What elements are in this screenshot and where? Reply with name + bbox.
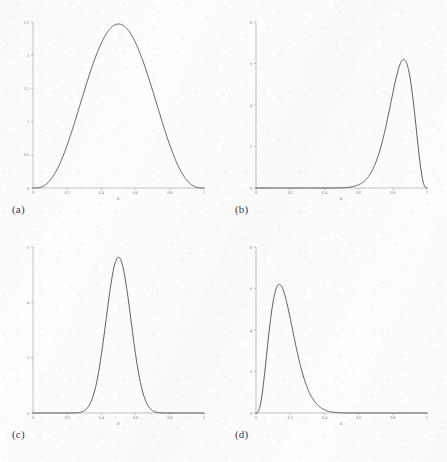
x-tick-label: 0 xyxy=(255,415,257,420)
y-tick-label: 6 xyxy=(250,286,252,291)
density-curve-a xyxy=(33,24,204,188)
y-tick-label: 2 xyxy=(27,355,29,360)
x-ticks-d: 00.20.40.60.81 xyxy=(255,413,428,420)
x-tick-label: 0.2 xyxy=(288,190,293,195)
y-tick-label: 0 xyxy=(27,186,29,191)
density-curve-c xyxy=(33,257,204,413)
y-tick-label: 0 xyxy=(250,411,252,416)
x-tick-label: 0.8 xyxy=(167,415,172,420)
y-tick-label: 0 xyxy=(27,411,29,416)
x-tick-label: 0.6 xyxy=(133,415,138,420)
panel-caption-b: (b) xyxy=(235,203,248,215)
x-tick-label: 0.8 xyxy=(167,190,172,195)
x-tick-label: 0.4 xyxy=(322,415,327,420)
y-ticks-c: 0246 xyxy=(27,245,33,416)
y-tick-label: 6 xyxy=(27,245,29,250)
chart-panel-a: 00.511.522.5 00.20.40.60.81 θ (a) xyxy=(0,0,223,231)
y-tick-label: 1 xyxy=(27,119,29,124)
chart-svg-a: 00.511.522.5 00.20.40.60.81 θ xyxy=(0,0,223,231)
y-tick-label: 1.5 xyxy=(24,86,29,91)
y-tick-label: 4 xyxy=(250,328,252,333)
x-ticks-a: 00.20.40.60.81 xyxy=(32,188,205,195)
y-tick-label: 0.5 xyxy=(24,152,29,157)
y-tick-label: 2 xyxy=(250,144,252,149)
x-tick-label: 0.2 xyxy=(65,415,70,420)
axes-b xyxy=(256,22,427,188)
panel-caption-d: (d) xyxy=(235,428,248,440)
y-tick-label: 4 xyxy=(27,300,29,305)
x-axis-title-c: θ xyxy=(117,421,119,426)
x-tick-label: 0.4 xyxy=(99,415,104,420)
x-tick-label: 1 xyxy=(426,415,428,420)
x-ticks-b: 00.20.40.60.81 xyxy=(255,188,428,195)
chart-panel-b: 02468 00.20.40.60.81 θ (b) xyxy=(223,0,446,231)
x-tick-label: 1 xyxy=(426,190,428,195)
x-tick-label: 0.6 xyxy=(356,415,361,420)
y-tick-label: 2 xyxy=(250,369,252,374)
axes-c xyxy=(33,247,204,413)
x-tick-label: 0.6 xyxy=(133,190,138,195)
x-tick-label: 0 xyxy=(32,190,34,195)
y-ticks-b: 02468 xyxy=(250,20,256,191)
x-tick-label: 0.8 xyxy=(390,415,395,420)
x-tick-label: 0.2 xyxy=(65,190,70,195)
axes-d xyxy=(256,247,427,413)
x-tick-label: 0.6 xyxy=(356,190,361,195)
panel-caption-c: (c) xyxy=(12,428,25,440)
x-tick-label: 0.8 xyxy=(390,190,395,195)
y-ticks-a: 00.511.522.5 xyxy=(24,20,33,191)
density-curve-b xyxy=(256,59,427,188)
x-tick-label: 0 xyxy=(32,415,34,420)
y-ticks-d: 02468 xyxy=(250,245,256,416)
y-tick-label: 0 xyxy=(250,186,252,191)
x-tick-label: 0.2 xyxy=(288,415,293,420)
y-tick-label: 8 xyxy=(250,245,252,250)
chart-svg-c: 0246 00.20.40.60.81 θ xyxy=(0,231,223,462)
x-ticks-c: 00.20.40.60.81 xyxy=(32,413,205,420)
y-tick-label: 8 xyxy=(250,20,252,25)
x-tick-label: 0.4 xyxy=(322,190,327,195)
panel-caption-a: (a) xyxy=(12,203,25,215)
density-curve-d xyxy=(256,284,427,413)
chart-panel-c: 0246 00.20.40.60.81 θ (c) xyxy=(0,231,223,462)
x-tick-label: 1 xyxy=(203,415,205,420)
x-axis-title-d: θ xyxy=(340,421,342,426)
y-tick-label: 6 xyxy=(250,61,252,66)
x-axis-title-b: θ xyxy=(340,196,342,201)
chart-svg-d: 02468 00.20.40.60.81 θ xyxy=(223,231,446,462)
figure-page: 00.511.522.5 00.20.40.60.81 θ (a) 02468 … xyxy=(0,0,447,462)
chart-svg-b: 02468 00.20.40.60.81 θ xyxy=(223,0,446,231)
y-tick-label: 2 xyxy=(27,53,29,58)
y-tick-label: 4 xyxy=(250,103,252,108)
x-axis-title-a: θ xyxy=(117,196,119,201)
x-tick-label: 0 xyxy=(255,190,257,195)
axes-a xyxy=(33,22,204,188)
x-tick-label: 1 xyxy=(203,190,205,195)
chart-panel-d: 02468 00.20.40.60.81 θ (d) xyxy=(223,231,446,462)
y-tick-label: 2.5 xyxy=(24,20,29,25)
x-tick-label: 0.4 xyxy=(99,190,104,195)
